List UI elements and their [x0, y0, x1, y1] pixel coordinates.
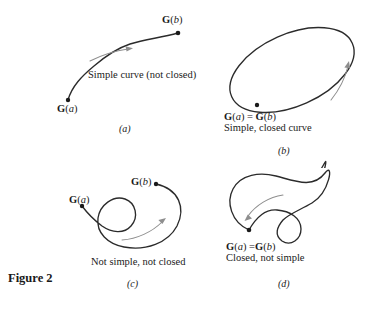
panel-a-letter: (a)	[119, 123, 131, 134]
panel-d-point-dot-overlay	[247, 228, 252, 233]
panel-c-end-point-label: G(b)	[131, 176, 151, 188]
panel-b-letter: (b)	[278, 145, 290, 156]
panel-d-direction-arrow-shaft	[248, 194, 281, 216]
panel-d-point-label: G(a) =G(b)	[226, 241, 275, 253]
panel-d-graphics	[231, 162, 326, 233]
panel-c-direction-arrow-shaft	[122, 222, 162, 240]
panel-b-point-dot	[255, 103, 259, 107]
curve-drawing-layer	[0, 0, 373, 314]
panel-c-letter: (c)	[127, 278, 138, 289]
panel-c-direction-arrow-head	[158, 218, 166, 224]
panel-b-description: Simple, closed curve	[224, 122, 312, 134]
panel-b-direction-arrow-shaft	[331, 66, 348, 100]
panel-d-arrow-head-overlay	[245, 215, 253, 221]
panel-a-direction-arrow-head	[126, 46, 134, 51]
panel-a-end-point-label: G(b)	[162, 14, 182, 26]
panel-b-point-label: G(a) = G(b)	[224, 111, 276, 123]
panel-d-description: Closed, not simple	[226, 252, 304, 264]
panel-d-point-dot	[247, 228, 252, 233]
figure-caption: Figure 2	[8, 271, 53, 285]
panel-a-graphics	[66, 31, 181, 103]
panel-d-curve	[231, 162, 326, 230]
panel-d-overlay-layer	[0, 0, 373, 314]
panel-a-direction-arrow-shaft	[90, 49, 128, 61]
panel-c-graphics	[80, 182, 181, 248]
panel-d-arrow-shaft-overlay	[248, 195, 283, 216]
panel-b-direction-arrow-head	[344, 61, 350, 68]
panel-a-start-dot	[66, 98, 70, 102]
panel-d-direction-arrow-head	[245, 215, 252, 221]
panel-a-end-dot	[176, 31, 181, 36]
panel-a-curve	[68, 33, 178, 100]
panel-c-start-point-label: G(a)	[69, 194, 89, 206]
panel-c-description: Not simple, not closed	[91, 256, 186, 268]
panel-a-description: Simple curve (not closed)	[88, 69, 196, 81]
panel-d-letter: (d)	[278, 278, 290, 289]
panel-c-end-dot	[154, 182, 158, 186]
panel-c-curve	[82, 184, 181, 248]
panel-a-start-point-label: G(a)	[57, 103, 77, 115]
figure-container: G(b) G(a) Simple curve (not closed) (a) …	[0, 0, 373, 314]
panel-d-bean-outline	[230, 170, 330, 243]
